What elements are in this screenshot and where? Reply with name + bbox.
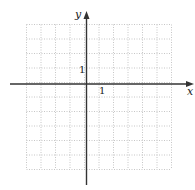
- y-tick-label: 1: [79, 64, 85, 75]
- y-axis-arrow-icon: [84, 11, 90, 19]
- x-tick-label: 1: [99, 85, 105, 96]
- coordinate-plane: y x 1 1: [0, 0, 195, 190]
- grid: [27, 25, 172, 170]
- x-axis-label: x: [187, 85, 194, 98]
- y-axis-label: y: [74, 8, 82, 21]
